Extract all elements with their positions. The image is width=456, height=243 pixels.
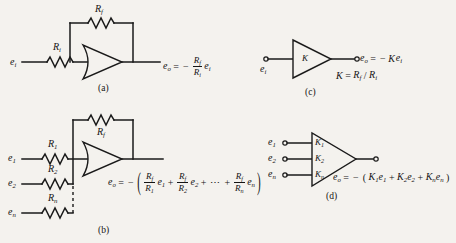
panel-a-input-resistor-zigzag	[47, 57, 73, 67]
panel-b-inputn-resistor-label: Rn	[48, 193, 58, 205]
panel-d-input2-label: e2	[268, 153, 276, 165]
panel-b-input2-source-label: e2	[8, 178, 16, 190]
panel-d-gain2-label: K2	[315, 154, 324, 164]
panel-a-amplifier-triangle	[83, 45, 122, 79]
panel-c-output-terminal	[355, 57, 359, 61]
panel-c-caption: (c)	[305, 88, 316, 98]
panel-b-input1-resistor-label: R1	[48, 139, 58, 151]
circuit-linework	[0, 0, 456, 243]
panel-b-amplifier-triangle	[83, 142, 122, 176]
panel-a-output-equation: eo = − Rf Ri ei	[163, 56, 211, 78]
panel-b-term2-fraction: Rf R2	[177, 172, 188, 194]
panel-a-feedback-resistor-label: Rf	[95, 4, 103, 16]
panel-d-input1-label: e1	[268, 137, 276, 149]
panel-b-input2-resistor-zigzag	[42, 179, 68, 189]
panel-d-caption: (d)	[326, 192, 337, 202]
panel-b-output-equation: eo = − ( Rf R1 e1 + Rf R2 e2 + ⋯ + Rf Rn…	[108, 172, 262, 194]
operational-amplifier-figure: ei Ri Rf eo = − Rf Ri ei (a) Rf e1 R1 e2…	[0, 0, 456, 243]
panel-a-feedback-resistor-zigzag	[88, 18, 114, 28]
panel-b-caption: (b)	[98, 226, 109, 236]
panel-c-output-equation: eo = − K ei	[360, 53, 402, 65]
panel-b-close-paren: )	[257, 170, 261, 195]
panel-c-input-label: ei	[260, 64, 266, 76]
panel-d-gain1-label: K1	[315, 138, 324, 148]
panel-b-inputn-source-label: en	[8, 207, 16, 219]
panel-a-caption: (a)	[98, 84, 109, 94]
panel-b-term1-fraction: Rf R1	[144, 172, 155, 194]
panel-b-feedback-resistor-label: Rf	[97, 127, 105, 139]
panel-d-output-terminal	[374, 157, 378, 161]
panel-b-equation-ellipsis: ⋯	[210, 178, 221, 188]
panel-d-inputn-label: en	[268, 169, 276, 181]
panel-b-input2-resistor-label: R2	[48, 164, 58, 176]
panel-a-input-resistor-label: Ri	[53, 42, 61, 54]
panel-c-gain-equation: K = Rf / Ri	[336, 70, 377, 82]
panel-b-inputn-resistor-zigzag	[42, 208, 68, 218]
panel-b-feedback-resistor-zigzag	[88, 115, 114, 125]
panel-c-gain-label: K	[302, 54, 308, 63]
panel-a-gain-fraction: Rf Ri	[193, 56, 202, 78]
panel-b-input1-source-label: e1	[8, 153, 16, 165]
panel-b-open-paren: (	[137, 170, 141, 195]
panel-b-termn-fraction: Rf Rn	[234, 172, 245, 194]
panel-d-gainn-label: Kn	[315, 170, 324, 180]
panel-d-output-equation: eo = − ( K1e1 + K2e2 + Knen )	[333, 172, 451, 184]
panel-a-input-source-label: ei	[10, 57, 16, 69]
panel-c-gain-triangle	[293, 40, 331, 78]
panel-b-input1-resistor-zigzag	[42, 154, 68, 164]
